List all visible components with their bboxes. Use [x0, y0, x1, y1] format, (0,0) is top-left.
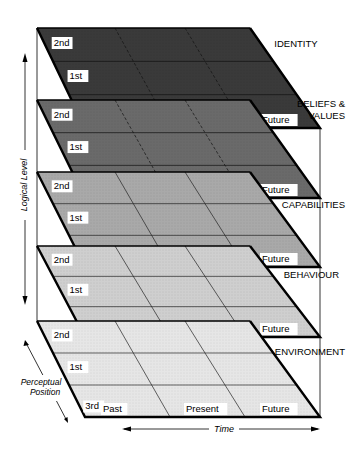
- logical-levels-diagram: 2nd1st3rdPastPresentFutureIDENTITY2nd1st…: [0, 0, 361, 463]
- position-tag-1st: 1st: [70, 70, 83, 81]
- logical-level-label: Logical Level: [19, 158, 29, 212]
- arrow-left-icon: [122, 427, 131, 432]
- position-tag-2nd: 2nd: [54, 37, 70, 48]
- layer-label: BELIEFS &: [297, 98, 346, 109]
- position-tag-2nd: 2nd: [54, 329, 70, 340]
- position-tag-3rd: 3rd: [85, 400, 99, 411]
- time-label: Time: [214, 424, 234, 434]
- layer-label: ENVIRONMENT: [275, 346, 345, 357]
- position-tag-1st: 1st: [70, 212, 83, 223]
- time-tag-present: Present: [186, 403, 219, 414]
- time-tag-future: Future: [262, 253, 289, 264]
- arrow-down-right-icon: [64, 417, 68, 423]
- layer-label: BEHAVIOUR: [284, 269, 339, 280]
- time-tag-past: Past: [103, 403, 122, 414]
- position-tag-2nd: 2nd: [54, 254, 70, 265]
- perceptual-position-label-line1: Perceptual: [21, 377, 63, 387]
- diagram-canvas: 2nd1st3rdPastPresentFutureIDENTITY2nd1st…: [0, 0, 361, 463]
- position-tag-1st: 1st: [70, 284, 83, 295]
- position-tag-1st: 1st: [70, 361, 83, 372]
- position-tag-2nd: 2nd: [54, 109, 70, 120]
- layer-label: VALUES: [308, 110, 345, 121]
- arrow-right-icon: [311, 427, 320, 432]
- position-tag-2nd: 2nd: [54, 180, 70, 191]
- logical-level-axis: Logical Level: [18, 53, 32, 305]
- layer-label: IDENTITY: [274, 38, 318, 49]
- position-tag-1st: 1st: [70, 141, 83, 152]
- time-tag-future: Future: [262, 403, 289, 414]
- time-axis: Time: [122, 423, 320, 435]
- arrow-down-icon: [23, 296, 28, 305]
- perceptual-position-label-line2: Position: [30, 387, 61, 397]
- layer-label: CAPABILITIES: [282, 199, 345, 210]
- arrow-up-left-icon: [24, 340, 30, 346]
- arrow-up-icon: [23, 53, 28, 62]
- time-tag-future: Future: [262, 323, 289, 334]
